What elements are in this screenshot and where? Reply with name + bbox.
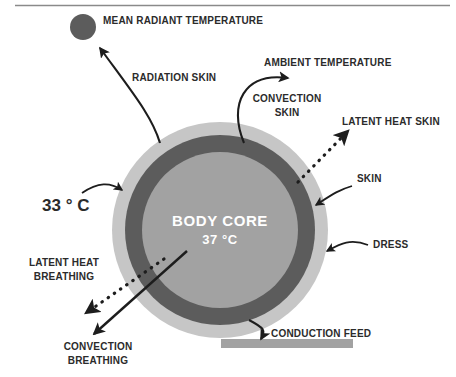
label-body-core: BODY CORE [140, 212, 300, 229]
label-latent-heat-breathing-line2: BREATHING [8, 270, 120, 284]
label-convection-skin-line2: SKIN [245, 106, 329, 120]
mean-radiant-temperature-dot [70, 14, 96, 40]
body-core-circle [142, 152, 298, 308]
label-skin-temperature: 33 ° C [42, 196, 89, 216]
label-mean-radiant-temperature: MEAN RADIANT TEMPERATURE [103, 14, 263, 27]
label-ambient-temperature: AMBIENT TEMPERATURE [264, 56, 392, 69]
label-skin: SKIN [357, 172, 382, 185]
label-convection-breathing-line2: BREATHING [36, 354, 160, 368]
label-latent-heat-breathing-line1: LATENT HEAT [8, 256, 120, 270]
conduction-feed-bar [221, 339, 353, 348]
label-conduction-feed: CONDUCTION FEED [271, 327, 371, 340]
label-dress: DRESS [373, 238, 408, 251]
label-latent-heat-skin: LATENT HEAT SKIN [342, 115, 440, 128]
label-convection-breathing-line1: CONVECTION [36, 340, 160, 354]
label-radiation-skin: RADIATION SKIN [132, 71, 216, 84]
radiation-skin-arrow [100, 48, 160, 143]
label-body-core-temperature: 37 °C [140, 232, 300, 247]
thermal-balance-diagram: MEAN RADIANT TEMPERATURE RADIATION SKIN … [0, 0, 456, 377]
skin-temperature-leader-arrow [82, 184, 122, 193]
dress-leader-arrow [327, 242, 368, 251]
label-convection-skin-line1: CONVECTION [245, 92, 329, 106]
